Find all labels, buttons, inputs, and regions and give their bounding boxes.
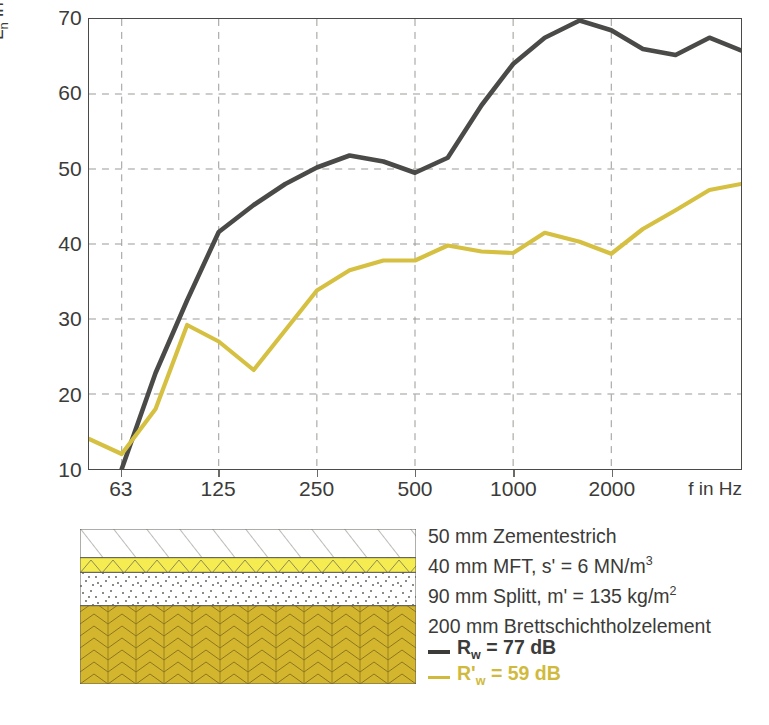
floor-build-up-drawing [80,529,416,684]
y-tick-label-30: 30 [36,308,82,329]
plot-area [88,18,742,470]
caption-line-2-sup: 3 [646,554,653,568]
x-tick-label-250: 250 [299,478,334,499]
legend-label-rw-prime-sub: w [476,673,486,687]
y-tick-label-10: 10 [36,459,82,480]
caption-block: 50 mm Zementestrich 40 mm MFT, s' = 6 MN… [428,519,763,690]
x-axis-ticks: f in Hz 6312525050010002000 [88,470,742,504]
section-figure: 50 mm Zementestrich 40 mm MFT, s' = 6 MN… [0,505,769,725]
x-tick-mark-2000 [612,470,613,477]
caption-line-2: 40 mm MFT, s' = 6 MN/m3 [428,549,763,579]
figure-root: Ln in dB 10203040506070 f in Hz 63125250… [0,0,769,725]
legend-swatch-yellow-line [428,676,450,679]
y-tick-label-40: 40 [36,233,82,254]
x-tick-label-1000: 1000 [490,478,537,499]
y-tick-label-60: 60 [36,82,82,103]
legend-swatch-dark-line [428,650,450,654]
caption-line-2-text: 40 mm MFT, s' = 6 MN/m [428,555,646,577]
legend-label-rw-tail: = 77 dB [481,636,556,658]
legend-entry-rw-prime: R'w = 59 dB [428,665,763,691]
legend-label-rw-prime: R'w = 59 dB [457,661,561,694]
x-tick-mark-1000 [513,470,514,477]
x-tick-mark-125 [218,470,219,477]
legend-label-rw-prime-tail: = 59 dB [485,662,560,684]
x-tick-mark-250 [317,470,318,477]
y-tick-label-70: 70 [36,7,82,28]
caption-line-1-text: 50 mm Zementestrich [428,525,617,547]
y-axis-title-main: L [0,29,7,40]
x-tick-label-2000: 2000 [589,478,636,499]
section-layer-mft-insulation [80,558,416,573]
x-tick-mark-500 [415,470,416,477]
x-tick-label-125: 125 [201,478,236,499]
caption-line-1: 50 mm Zementestrich [428,519,763,549]
curves [89,19,741,469]
y-tick-label-20: 20 [36,384,82,405]
caption-line-3-text: 90 mm Splitt, m' = 135 kg/m [428,585,670,607]
x-tick-label-63: 63 [109,478,132,499]
section-layer-cement-screed [80,529,416,558]
legend-label-rw-main: R [457,636,471,658]
y-axis-ticks: 10203040506070 [30,18,82,470]
y-axis-title: Ln in dB [0,0,11,40]
floor-section-svg [80,529,416,684]
section-layer-gravel-fill [80,572,416,605]
caption-line-3-sup: 2 [670,584,677,598]
caption-line-4-text: 200 mm Brettschichtholzelement [428,615,711,637]
y-tick-label-50: 50 [36,158,82,179]
y-axis-title-tail: in dB [0,0,7,22]
y-axis-title-sub: n [0,22,11,29]
x-tick-label-500: 500 [397,478,432,499]
chart-figure: Ln in dB 10203040506070 f in Hz 63125250… [0,0,769,505]
legend-label-rw-prime-main: R' [457,662,476,684]
caption-line-3: 90 mm Splitt, m' = 135 kg/m2 [428,579,763,609]
x-tick-mark-63 [121,470,122,477]
x-axis-title: f in Hz [688,478,742,500]
